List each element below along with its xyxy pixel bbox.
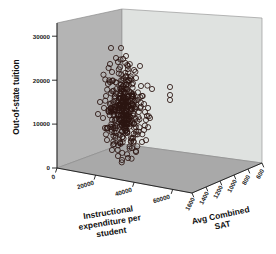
plot-box [57,9,262,193]
z-tick-label-1200: 1200 [211,184,224,200]
y-tick-label-10000: 10000 [33,120,51,127]
x-tick-0 [56,168,58,173]
y-tick-label-30000: 30000 [33,33,51,40]
x-tick-label-60000: 60000 [152,193,171,205]
z-tick-label-800: 800 [240,173,251,186]
z-tick-1400 [206,187,208,191]
z-tick-1000 [234,175,236,179]
y-axis-title: Out-of-state tuition [11,59,21,134]
x-tick-label-40000: 40000 [114,186,133,198]
y-tick-label-0: 0 [47,164,51,171]
x-tick-40000 [133,182,135,187]
x-tick-20000 [94,175,96,180]
x-axis-title: Instructional expenditure per student [76,202,143,242]
z-tick-800 [248,169,250,173]
x-tick-60000 [171,189,173,194]
scatter-plot-3d: 30000 20000 10000 0 Out-of-state tuition… [0,0,276,254]
y-tick-label-20000: 20000 [33,77,51,84]
z-tick-label-1400: 1400 [197,190,210,206]
z-tick-label-600: 600 [254,167,265,180]
z-tick-label-1600: 1600 [183,196,196,212]
plot-canvas: 30000 20000 10000 0 Out-of-state tuition… [0,0,276,254]
z-tick-label-1000: 1000 [225,178,238,194]
z-tick-1600 [192,193,194,197]
x-tick-label-0: 0 [51,173,57,181]
z-tick-600 [262,163,264,167]
z-axis-title: Avg Combined SAT [191,204,253,236]
x-tick-label-20000: 20000 [76,179,95,191]
z-tick-1200 [220,181,222,185]
z-axis-title-line-2: SAT [214,218,233,231]
y-axis: 30000 20000 10000 0 Out-of-state tuition [11,23,57,171]
